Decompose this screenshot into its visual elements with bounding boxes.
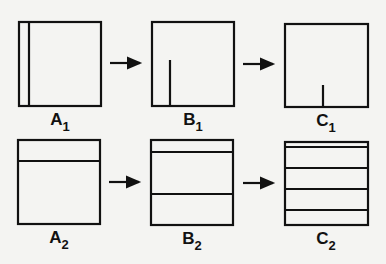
panel-c2	[285, 142, 368, 225]
panel-c1	[285, 24, 368, 107]
label-a2: A2	[29, 228, 89, 252]
panel-b1	[152, 22, 234, 106]
label-a1: A1	[30, 110, 90, 134]
label-b1: B1	[163, 110, 223, 134]
label-b2: B2	[162, 229, 222, 253]
panel-b2	[151, 140, 233, 225]
panel-a1	[19, 22, 101, 106]
label-c1: C1	[296, 111, 356, 135]
label-c2: C2	[296, 229, 356, 253]
panel-a2	[18, 140, 100, 224]
